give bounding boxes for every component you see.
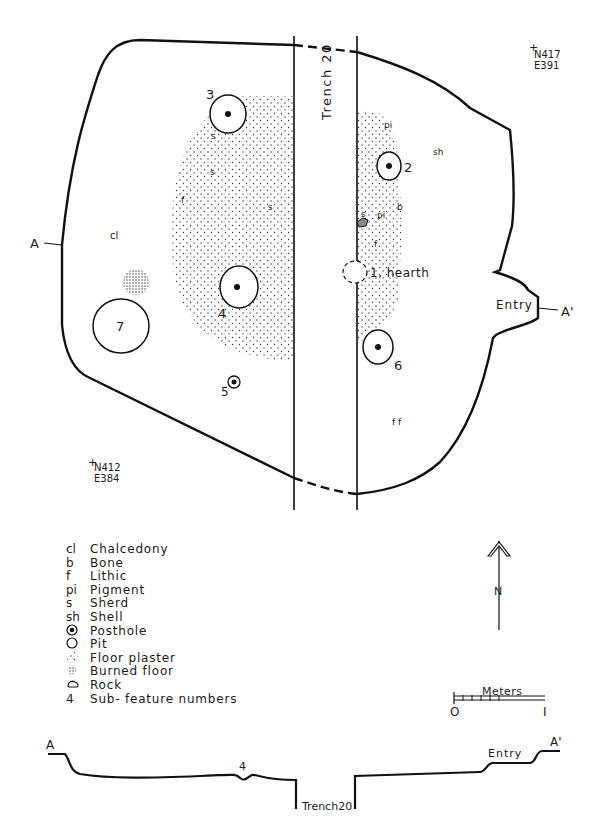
floor-plaster-east (357, 110, 402, 345)
artifact-b: b (397, 202, 403, 212)
legend-item-sherd: sSherd (62, 597, 237, 611)
site-plan-drawing: Trench 20 A A' Entry + N417 E391 + N412 … (0, 0, 598, 839)
legend-item-lithic: fLithic (62, 570, 237, 584)
profile-feature-label: 4 (239, 760, 246, 773)
posthole-2: 2 (377, 152, 412, 180)
svg-text:7: 7 (116, 319, 124, 334)
artifact-s: s (210, 167, 215, 177)
artifact-s: s (211, 131, 216, 141)
corner-sw-east: E384 (94, 473, 119, 484)
legend-item-subfeature: 4Sub- feature numbers (62, 693, 237, 707)
posthole-5: 5 (221, 376, 240, 399)
artifact-s: s (268, 202, 273, 212)
artifact-ff: f f (392, 417, 402, 427)
svg-text:4: 4 (218, 306, 226, 321)
corner-ne-north: N417 (534, 49, 561, 60)
artifact-cl: cl (110, 230, 118, 241)
legend: clChalcedony bBone fLithic piPigment sSh… (62, 543, 237, 706)
svg-text:2: 2 (404, 160, 412, 175)
artifact-sh: sh (433, 147, 443, 157)
profile-start-label: A (46, 738, 55, 752)
artifact-s: s (361, 209, 366, 219)
profile-trench-label: Trench20 (301, 800, 352, 813)
legend-item-posthole: Posthole (62, 625, 237, 639)
north-label: N (494, 585, 502, 598)
legend-item-burned-floor: Burned floor (62, 665, 237, 679)
svg-text:3: 3 (206, 87, 214, 102)
profile-end-label: A' (550, 735, 562, 749)
trench-label: Trench 20 (319, 43, 334, 121)
svg-text:1, hearth: 1, hearth (370, 266, 429, 280)
scale-start: O (450, 705, 459, 719)
artifact-pi: pi (384, 120, 392, 130)
pit-7: 7 (93, 299, 149, 353)
svg-text:5: 5 (221, 385, 229, 399)
scale-bar: Meters O I (450, 685, 547, 719)
section-marker-a (44, 243, 62, 245)
corner-sw-north: N412 (94, 462, 121, 473)
scale-end: I (543, 705, 547, 719)
legend-item-shell: shShell (62, 611, 237, 625)
section-label-a-prime: A' (561, 304, 573, 319)
floor-plaster-west (171, 96, 294, 361)
section-label-a: A (30, 236, 39, 251)
svg-text:6: 6 (394, 358, 402, 373)
posthole-6: 6 (363, 330, 402, 373)
burned-floor (123, 269, 149, 295)
profile-section: A A' 4 Entry Trench20 (46, 735, 562, 813)
profile-entry-label: Entry (488, 747, 522, 760)
artifact-pi: pi (377, 210, 385, 220)
legend-item-pit: Pit (62, 638, 237, 652)
legend-item-chalcedony: clChalcedony (62, 543, 237, 557)
legend-item-rock: Rock (62, 679, 237, 693)
outline-dashed-south (294, 478, 357, 494)
north-arrow: N (488, 541, 510, 630)
legend-item-pigment: piPigment (62, 584, 237, 598)
corner-ne-east: E391 (534, 60, 559, 71)
section-marker-a-prime (538, 308, 558, 310)
legend-item-floor-plaster: Floor plaster (62, 652, 237, 666)
entry-label: Entry (496, 298, 533, 312)
legend-item-bone: bBone (62, 557, 237, 571)
